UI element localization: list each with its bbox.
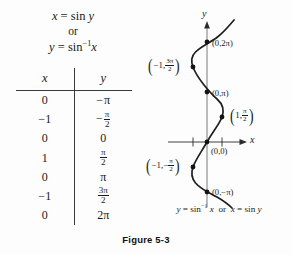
label-point-neg1-3pi-2: (−1,3π2) (147, 58, 181, 73)
label-point-1-pi-2: (1,π2) (229, 108, 254, 123)
values-table: x y 0−π−1−π2001π20π−13π202π (16, 68, 132, 225)
caption-argument-2: y (258, 204, 262, 214)
caption-function-2: sin (245, 204, 256, 214)
equation-line-2: y = sin−1x (0, 39, 146, 55)
graph-caption: y = sin−1 x or x = sin y (146, 203, 292, 214)
table-row: 0−π (16, 91, 132, 111)
table-cell-y: π (74, 168, 132, 187)
paren-right-icon: ) (175, 59, 180, 73)
fraction: 3π2 (98, 186, 109, 205)
label-point-neg1-neg-pi-2: (−1,−π2) (145, 158, 180, 173)
caption-argument-1: x (210, 204, 214, 214)
y-axis-label: y (202, 8, 206, 19)
dot-0-pi (205, 90, 210, 95)
table-cell-x: −1 (16, 187, 74, 206)
table-row: −1−π2 (16, 110, 132, 129)
values-table-wrapper: x y 0−π−1−π2001π20π−13π202π (16, 68, 132, 225)
table-cell-y: 0 (74, 129, 132, 148)
fraction: π2 (100, 148, 107, 167)
minus-sign: − (96, 93, 103, 107)
table-cell-x: 0 (16, 91, 74, 111)
equation-block: x = sin y or y = sin−1x (0, 8, 146, 55)
table-cell-x: 0 (16, 129, 74, 148)
table-cell-x: 0 (16, 206, 74, 225)
dot-1-pi-2 (220, 115, 225, 120)
paren-left-icon: ( (148, 59, 153, 73)
dot-0-neg-pi (205, 190, 210, 195)
table-cell-y: 3π2 (74, 187, 132, 206)
dot-0-2pi (205, 40, 210, 45)
paren-right-icon: ) (175, 159, 180, 173)
table-header-x: x (16, 68, 74, 91)
dot-0-0 (205, 140, 210, 145)
paren-left-icon: ( (146, 159, 151, 173)
table-row: 0π (16, 168, 132, 187)
label-neg1-3pi2-den: 2 (165, 66, 174, 73)
value-text: π (104, 93, 110, 107)
label-point-0-2pi: (0,2π) (212, 38, 233, 48)
paren-left-icon: ( (230, 109, 235, 123)
caption-lhs: y (176, 204, 180, 214)
table-cell-x: 0 (16, 168, 74, 187)
table-row: 1π2 (16, 148, 132, 167)
paren-right-icon: ) (249, 109, 254, 123)
value-text: π (100, 170, 106, 184)
eq1-equals: = (61, 9, 68, 23)
eq2-equals: = (58, 40, 65, 54)
figure-label: Figure 5-3 (0, 234, 292, 245)
eq1-lhs: x (52, 9, 58, 23)
caption-rhs: x (231, 204, 235, 214)
value-text: 2π (97, 208, 109, 222)
equation-line-1: x = sin y (0, 8, 146, 24)
label-neg1-3pi2-lead: −1, (153, 60, 165, 70)
caption-exponent: −1 (201, 203, 207, 209)
table-header-row: x y (16, 68, 132, 91)
label-point-0-pi: (0,π) (212, 88, 229, 98)
eq2-lhs: y (49, 40, 55, 54)
fraction-denominator: 2 (100, 158, 107, 167)
graph-panel: y x (0,2π) (−1,3π2) (0,π) (1,π2) (0,0) (… (146, 0, 292, 228)
table-row: 02π (16, 206, 132, 225)
caption-equals-1: = (183, 204, 188, 214)
fraction: π2 (104, 110, 111, 129)
figure-container: x = sin y or y = sin−1x x y 0−π−1−π2001π… (0, 0, 292, 255)
label-point-0-neg-pi: (0,−π) (212, 187, 233, 197)
table-row: 00 (16, 129, 132, 148)
eq2-argument: x (91, 40, 97, 54)
table-header-y: y (74, 68, 132, 91)
table-head: x y (16, 68, 132, 91)
fraction-denominator: 2 (104, 120, 111, 129)
table-row: −13π2 (16, 187, 132, 206)
table-cell-y: −π (74, 91, 132, 111)
dot-neg1-neg-pi-2 (191, 165, 196, 170)
table-cell-y: 2π (74, 206, 132, 225)
dot-neg1-3pi-2 (191, 65, 196, 70)
eq1-argument: y (89, 9, 95, 23)
minus-sign: − (96, 111, 103, 125)
x-axis-arrow (240, 139, 248, 145)
table-cell-x: −1 (16, 110, 74, 129)
eq1-function: sin (71, 9, 86, 23)
value-text: 0 (100, 131, 106, 145)
label-neg1-negpi2-lead: −1,− (151, 160, 168, 170)
x-axis-label: x (250, 134, 254, 145)
caption-or: or (218, 204, 226, 214)
table-cell-x: 1 (16, 148, 74, 167)
table-cell-y: −π2 (74, 110, 132, 129)
equation-or: or (0, 24, 146, 39)
eq2-function: sin (68, 40, 83, 54)
label-point-0-0: (0,0) (211, 146, 227, 156)
caption-equals-2: = (237, 204, 242, 214)
sine-curve (192, 20, 234, 208)
label-1-pi2-lead: 1, (235, 110, 242, 120)
label-1-pi2-den: 2 (242, 116, 248, 123)
table-cell-y: π2 (74, 148, 132, 167)
table-body: 0−π−1−π2001π20π−13π202π (16, 91, 132, 226)
label-neg1-negpi2-den: 2 (168, 166, 174, 173)
y-axis-arrow (204, 21, 210, 29)
fraction-denominator: 2 (98, 196, 109, 205)
caption-function-1: sin (190, 204, 201, 214)
